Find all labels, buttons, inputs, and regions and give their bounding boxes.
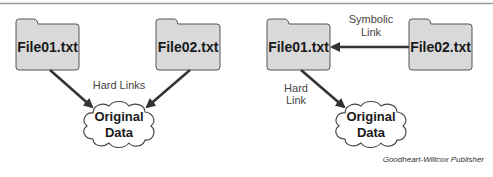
right-symbolic-link-diagram: File01.txt File02.txt Symbolic Link Hard… — [267, 13, 472, 148]
left-file01-folder-icon: File01.txt — [16, 19, 79, 70]
symbolic-label-line1: Symbolic — [349, 13, 394, 25]
hard-label-line2: Link — [286, 94, 307, 106]
right-file02-label: File02.txt — [410, 39, 471, 55]
left-file01-label: File01.txt — [17, 39, 78, 55]
right-cloud-line2: Data — [357, 125, 386, 140]
right-file01-folder-icon: File01.txt — [267, 19, 330, 70]
right-cloud-line1: Original — [346, 109, 395, 124]
left-file02-folder-icon: File02.txt — [156, 19, 220, 70]
left-file02-label: File02.txt — [158, 39, 219, 55]
right-file01-label: File01.txt — [268, 39, 329, 55]
links-diagram: File01.txt File02.txt Hard Links Origina… — [0, 0, 493, 177]
left-cloud-line2: Data — [105, 125, 134, 140]
left-hard-links-diagram: File01.txt File02.txt Hard Links Origina… — [16, 19, 220, 148]
hard-label-line1: Hard — [284, 82, 308, 94]
publisher-credit: Goodheart-Willcox Publisher — [383, 155, 485, 164]
hard-links-label: Hard Links — [93, 79, 146, 91]
left-hardlink-arrow-2 — [147, 70, 190, 107]
right-file02-folder-icon: File02.txt — [409, 19, 472, 70]
left-hardlink-arrow-1 — [50, 70, 92, 107]
left-cloud-line1: Original — [94, 109, 143, 124]
symbolic-label-line2: Link — [361, 26, 382, 38]
